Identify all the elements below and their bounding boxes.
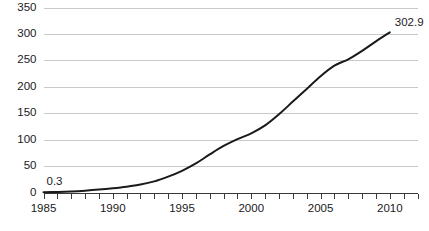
line-chart: 050100150200250300350 198519901995200020… — [0, 0, 429, 231]
y-axis-tick-label: 300 — [17, 27, 36, 39]
y-axis-tick-label: 100 — [17, 133, 36, 145]
y-axis-tick-label: 0 — [30, 186, 36, 198]
y-axis-tick-label: 200 — [17, 80, 36, 92]
x-axis-tick-label: 2005 — [308, 202, 334, 214]
end-value-label: 302.9 — [395, 16, 424, 28]
y-axis-tick-label: 250 — [17, 53, 36, 65]
y-axis-tick-label: 350 — [17, 1, 36, 13]
x-axis-tick-label: 1985 — [31, 202, 57, 214]
start-value-label: 0.3 — [47, 175, 63, 187]
y-axis-tick-label: 150 — [17, 106, 36, 118]
x-axis-tick-label: 1995 — [169, 202, 195, 214]
x-axis-tick-label: 1990 — [100, 202, 126, 214]
y-axis-tick-label: 50 — [24, 159, 37, 171]
x-axis-tick-label: 2010 — [377, 202, 403, 214]
x-axis-tick-label: 2000 — [238, 202, 264, 214]
chart-canvas: 050100150200250300350 198519901995200020… — [0, 0, 429, 231]
